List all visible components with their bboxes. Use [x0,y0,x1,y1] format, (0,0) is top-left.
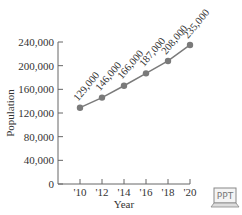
x-tick-label: '16 [140,186,153,198]
data-label: 235,000 [181,7,211,40]
y-tick-label: 40,000 [24,154,55,166]
line-chart: 040,00080,000120,000160,000200,000240,00… [0,0,242,215]
ppt-icon[interactable]: PPT [211,188,239,207]
y-axis: 040,00080,000120,000160,000200,000240,00… [18,36,63,190]
data-point [99,94,105,100]
data-point [165,58,171,64]
y-tick-label: 80,000 [24,131,55,143]
x-tick-label: '10 [74,186,87,198]
ppt-badge-label: PPT [217,191,234,201]
x-tick-label: '14 [118,186,131,198]
data-point [187,42,193,48]
y-tick-label: 240,000 [18,36,54,48]
x-tick-label: '20 [184,186,197,198]
y-axis-label: Population [4,89,16,137]
data-point [77,104,83,110]
population-series: 129,000146,000166,000187,000208,000235,0… [71,7,211,111]
y-tick-label: 120,000 [18,107,54,119]
x-axis-label: Year [114,198,135,210]
x-tick-label: '18 [162,186,175,198]
y-tick-label: 160,000 [18,83,54,95]
y-tick-label: 0 [49,178,55,190]
x-axis: '10'12'14'16'18'20 [58,179,197,198]
y-tick-label: 200,000 [18,60,54,72]
data-point [121,83,127,89]
x-tick-label: '12 [96,186,109,198]
data-point [143,70,149,76]
